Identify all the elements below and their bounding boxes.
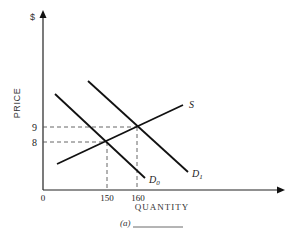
y-tick-8: 8 (32, 137, 37, 148)
x-axis-arrow-icon (277, 187, 285, 194)
figure-caption: (a) (120, 218, 131, 228)
d1-label: D1 (191, 168, 203, 181)
supply-label: S (189, 99, 194, 110)
y-axis-unit: $ (30, 12, 35, 22)
d0-label: D0 (148, 174, 160, 187)
y-axis-arrow-icon (40, 10, 47, 18)
demand-curve-d1 (88, 81, 188, 172)
x-tick-150: 150 (100, 193, 114, 203)
supply-demand-chart: $ PRICE 9 8 0 150 160 QUANTITY S D0 D1 (… (0, 0, 294, 250)
demand-curve-d0 (55, 94, 145, 178)
x-tick-0: 0 (41, 193, 46, 203)
y-axis-label: PRICE (12, 88, 22, 119)
y-tick-9: 9 (32, 122, 37, 133)
x-axis-label: QUANTITY (135, 202, 190, 212)
